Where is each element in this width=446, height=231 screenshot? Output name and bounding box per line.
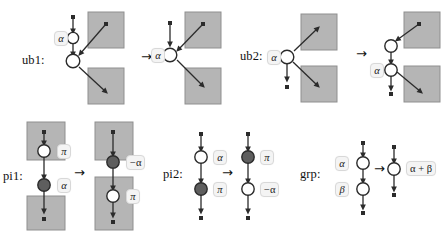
rewrite-arrow: → xyxy=(222,166,233,179)
rule-ub1-rhs xyxy=(163,12,221,104)
rule-ub2-rhs xyxy=(385,12,440,102)
boundary-box xyxy=(88,12,124,48)
rule-label-ub1: ub1: xyxy=(22,53,45,68)
rule-pi1-rhs xyxy=(95,122,133,230)
output-terminal xyxy=(361,211,365,215)
angle-label-alpha[interactable]: α xyxy=(267,50,281,65)
rule-label-grp: grp: xyxy=(300,167,321,182)
node-white xyxy=(357,183,369,195)
rule-label-pi1: pi1: xyxy=(3,169,23,184)
rule-pi2-rhs xyxy=(242,132,254,220)
boundary-box xyxy=(301,66,337,102)
angle-label-neg-alpha[interactable]: −α xyxy=(126,155,145,170)
output-terminal xyxy=(389,92,393,96)
boundary-box xyxy=(301,14,337,50)
rule-grp-rhs xyxy=(388,145,400,197)
boundary-box xyxy=(185,12,221,48)
output-terminal xyxy=(199,216,203,220)
box-terminal xyxy=(201,22,205,26)
angle-label-alpha[interactable]: α xyxy=(57,178,71,193)
node-white xyxy=(195,151,207,163)
rule-ub1-lhs xyxy=(66,12,124,104)
rewrite-arrow: → xyxy=(356,47,367,60)
angle-label-pi[interactable]: π xyxy=(213,182,227,197)
node-white xyxy=(38,145,50,157)
boundary-box xyxy=(404,12,440,48)
node-dark xyxy=(38,179,50,191)
rule-pi1-lhs xyxy=(27,122,65,230)
angle-label-alpha[interactable]: α xyxy=(213,150,227,165)
boundary-box xyxy=(95,122,133,160)
rule-ub2-lhs xyxy=(280,14,337,102)
angle-label-alpha[interactable]: α xyxy=(151,48,165,63)
rule-label-ub2: ub2: xyxy=(240,49,263,64)
rule-grp-lhs xyxy=(357,141,369,215)
boundary-box xyxy=(404,66,440,102)
output-terminal xyxy=(392,193,396,197)
angle-label-beta[interactable]: β xyxy=(335,182,349,197)
rewrite-arrow: → xyxy=(74,166,85,179)
input-terminal xyxy=(71,15,75,19)
node-white xyxy=(385,40,397,52)
output-terminal xyxy=(42,217,46,221)
node-white xyxy=(67,32,78,43)
output-terminal xyxy=(111,220,115,224)
angle-label-alpha-plus-beta[interactable]: α + β xyxy=(406,161,436,176)
node-white xyxy=(388,163,400,175)
output-terminal xyxy=(285,85,289,89)
angle-label-neg-alpha[interactable]: −α xyxy=(260,182,279,197)
node-white xyxy=(357,157,369,169)
boundary-box xyxy=(27,196,65,230)
node-white xyxy=(242,183,254,195)
node-dark xyxy=(107,156,119,168)
angle-label-pi[interactable]: π xyxy=(57,144,71,159)
rewrite-arrow: → xyxy=(374,162,385,175)
node-white xyxy=(107,190,119,202)
node-white xyxy=(66,54,80,68)
output-terminal xyxy=(246,216,250,220)
node-white xyxy=(385,64,397,76)
angle-label-alpha[interactable]: α xyxy=(54,31,68,46)
node-white xyxy=(280,50,294,64)
box-terminal xyxy=(417,22,421,26)
node-dark xyxy=(242,151,254,163)
angle-label-alpha[interactable]: α xyxy=(335,156,349,171)
box-terminal xyxy=(104,22,108,26)
node-dark xyxy=(195,183,207,195)
rule-pi2-lhs xyxy=(195,132,207,220)
angle-label-pi[interactable]: π xyxy=(126,189,140,204)
node-white xyxy=(163,48,177,62)
input-terminal xyxy=(168,21,172,25)
angle-label-alpha[interactable]: α xyxy=(370,63,384,78)
rule-label-pi2: pi2: xyxy=(163,167,183,182)
boundary-box xyxy=(88,68,124,104)
angle-label-pi[interactable]: π xyxy=(260,150,274,165)
